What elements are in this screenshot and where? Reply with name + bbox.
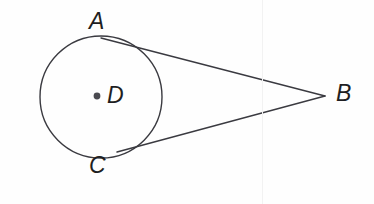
diagram-background <box>0 0 374 204</box>
vertex-label-a: A <box>89 10 104 33</box>
geometry-diagram-canvas: A C B D <box>0 0 374 204</box>
center-point-dot-d <box>94 93 101 100</box>
geometry-figure <box>0 0 374 204</box>
center-label-d: D <box>107 84 124 107</box>
page-seam-artifact <box>262 0 263 204</box>
vertex-label-b: B <box>336 82 351 105</box>
vertex-label-c: C <box>89 154 106 177</box>
